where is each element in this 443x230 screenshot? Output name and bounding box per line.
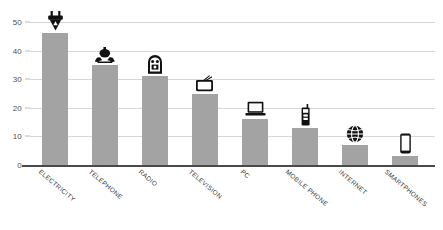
- x-axis-label-television: TELEVISION: [188, 168, 224, 200]
- y-axis-label-10: 10: [13, 132, 22, 141]
- x-axis-label-smartphones: SMARTPHONES: [384, 168, 429, 208]
- bar-telephone[interactable]: [92, 65, 118, 165]
- bar-electricity[interactable]: [42, 33, 68, 165]
- mobile-phone-icon: [294, 104, 316, 126]
- x-axis-label-mobile-phone: MOBILE PHONE: [285, 168, 330, 207]
- x-axis-label-radio: RADIO: [138, 168, 159, 188]
- x-axis-baseline: [22, 165, 435, 167]
- x-axis: ELECTRICITY TELEPHONE RADIO TELEVISION P…: [30, 168, 435, 228]
- y-axis-label-20: 20: [13, 103, 22, 112]
- smartphone-icon: [394, 132, 416, 154]
- bar-smartphones[interactable]: [392, 156, 418, 165]
- bar-internet[interactable]: [342, 145, 368, 165]
- y-axis: 50 40 30 20 10 0: [0, 0, 30, 173]
- plot-area: [30, 8, 435, 165]
- x-axis-label-internet: INTERNET: [338, 168, 369, 196]
- y-axis-label-50: 50: [13, 18, 22, 27]
- bar-series: [30, 8, 435, 165]
- bar-group-smartphones[interactable]: [380, 8, 430, 165]
- bar-chart: 50 40 30 20 10 0: [0, 0, 443, 230]
- x-axis-label-telephone: TELEPHONE: [88, 168, 125, 200]
- radio-icon: [144, 52, 166, 74]
- bar-group-mobile-phone[interactable]: [280, 8, 330, 165]
- telephone-icon: [94, 41, 116, 63]
- laptop-icon: [244, 95, 266, 117]
- power-plug-icon: [44, 9, 66, 31]
- bar-mobile-phone[interactable]: [292, 128, 318, 165]
- x-axis-label-electricity: ELECTRICITY: [38, 168, 77, 203]
- bar-group-telephone[interactable]: [80, 8, 130, 165]
- television-icon: [194, 70, 216, 92]
- bar-group-electricity[interactable]: [30, 8, 80, 165]
- bar-television[interactable]: [192, 94, 218, 166]
- bar-pc[interactable]: [242, 119, 268, 165]
- bar-group-internet[interactable]: [330, 8, 380, 165]
- bar-radio[interactable]: [142, 76, 168, 165]
- bar-group-pc[interactable]: [230, 8, 280, 165]
- y-axis-label-40: 40: [13, 46, 22, 55]
- bar-group-television[interactable]: [180, 8, 230, 165]
- x-axis-label-pc: PC: [240, 168, 252, 180]
- y-axis-label-30: 30: [13, 75, 22, 84]
- globe-internet-icon: [344, 121, 366, 143]
- bar-group-radio[interactable]: [130, 8, 180, 165]
